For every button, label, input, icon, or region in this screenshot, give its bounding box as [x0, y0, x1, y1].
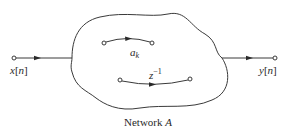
input-branch [12, 56, 72, 60]
input-node [12, 56, 16, 60]
output-node [273, 56, 277, 60]
input-label: x[n] [9, 64, 28, 76]
branch-top [102, 37, 154, 45]
arrow-icon [125, 37, 132, 41]
branch-bottom [118, 77, 192, 87]
arrow-icon [246, 56, 253, 60]
arrow-icon [34, 56, 41, 60]
branch-top-end-node [150, 41, 154, 45]
output-branch [222, 56, 277, 60]
branch-top-gain-label: ak [130, 46, 140, 60]
network-diagram: ak z−1 x[n] y[n] Network A [0, 0, 289, 129]
arrow-icon [149, 82, 156, 86]
diagram-caption: Network A [124, 116, 172, 128]
network-boundary [71, 13, 228, 109]
branch-bottom-gain-label: z−1 [148, 67, 162, 81]
branch-top-start-node [102, 41, 106, 45]
branch-bottom-end-node [188, 77, 192, 81]
output-label: y[n] [258, 64, 277, 76]
branch-bottom-start-node [118, 78, 122, 82]
